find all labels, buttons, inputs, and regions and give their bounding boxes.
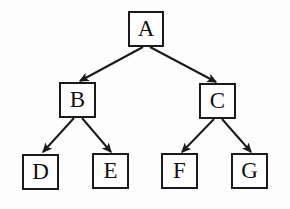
tree-node-g: G — [231, 153, 268, 189]
tree-node-b: B — [59, 82, 96, 118]
tree-node-e: E — [92, 153, 129, 189]
tree-node-c-label: C — [210, 89, 225, 114]
tree-node-c: C — [199, 83, 236, 119]
edge-c-to-f — [182, 119, 214, 152]
tree-node-e-label: E — [103, 159, 117, 184]
tree-node-a: A — [128, 11, 164, 47]
edge-c-to-g — [222, 119, 251, 152]
tree-node-b-label: B — [70, 88, 85, 113]
edge-a-to-c — [150, 47, 216, 82]
edge-b-to-d — [43, 118, 74, 152]
edge-a-to-b — [80, 47, 143, 81]
tree-node-a-label: A — [138, 17, 155, 42]
tree-node-f-label: F — [173, 159, 186, 184]
tree-node-g-label: G — [241, 159, 258, 184]
tree-node-d-label: D — [32, 160, 49, 185]
tree-node-f: F — [161, 153, 198, 189]
tree-node-d: D — [22, 154, 59, 190]
binary-tree-diagram: A B C D E F G — [0, 0, 290, 209]
edge-b-to-e — [82, 118, 111, 152]
